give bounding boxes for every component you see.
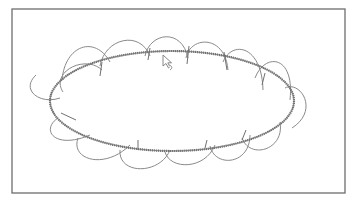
petal-loop <box>255 62 291 100</box>
petal-loop <box>62 47 110 80</box>
petal-loop <box>145 37 188 58</box>
petal-loop <box>120 150 170 169</box>
petal-loop <box>100 40 150 66</box>
intersection-tick <box>205 140 207 148</box>
petal-loop <box>285 87 306 128</box>
main-ellipse[interactable] <box>50 51 294 151</box>
arrow-cursor-icon <box>163 55 172 70</box>
drawing-canvas[interactable] <box>0 0 358 205</box>
petal-loops <box>30 37 306 169</box>
petal-loop <box>165 145 215 165</box>
petal-loop <box>223 49 263 90</box>
intersection-tick <box>61 113 76 120</box>
intersection-tick <box>242 130 246 140</box>
